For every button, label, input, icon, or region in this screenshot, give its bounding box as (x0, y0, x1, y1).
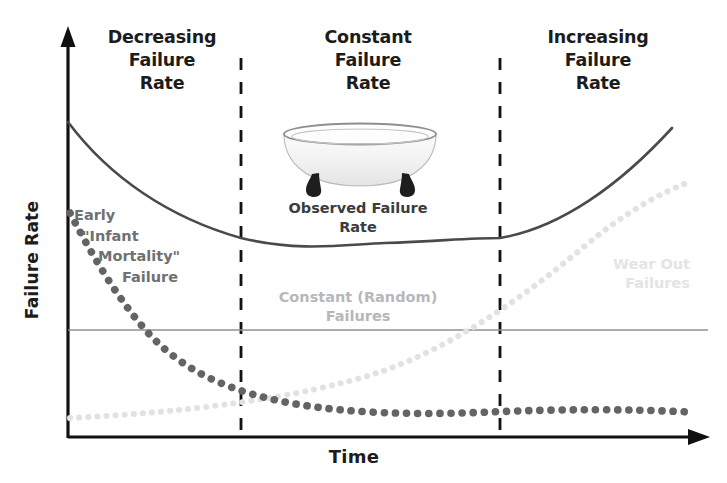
infant-mortality-label-line4: Failure (72, 267, 180, 288)
x-axis (68, 429, 710, 445)
observed-failure-rate-label-line2: Rate (258, 218, 458, 237)
zone-heading-increasing-line1: Increasing (520, 26, 676, 49)
infant-mortality-label-line2: "Infant (72, 226, 180, 247)
constant-random-failures-label-line1: Constant (Random) (250, 288, 466, 307)
constant-random-failures-label-line2: Failures (250, 307, 466, 326)
wear-out-failures-label-line2: Failures (578, 274, 690, 293)
observed-failure-rate-label: Observed Failure Rate (258, 199, 458, 237)
bathtub-foot-left (306, 173, 321, 197)
infant-mortality-label-line3: Mortality" (72, 246, 180, 267)
bathtub-icon (274, 120, 446, 200)
zone-heading-increasing-line3: Rate (520, 72, 676, 95)
zone-heading-constant: Constant Failure Rate (292, 26, 444, 95)
bathtub-curve-diagram: Decreasing Failure Rate Constant Failure… (0, 0, 727, 483)
wear-out-failures-label: Wear Out Failures (578, 255, 690, 294)
observed-failure-rate-label-line1: Observed Failure (258, 199, 458, 218)
zone-heading-constant-line3: Rate (292, 72, 444, 95)
zone-heading-increasing: Increasing Failure Rate (520, 26, 676, 95)
zone-heading-constant-line2: Failure (292, 49, 444, 72)
x-axis-title: Time (274, 446, 434, 467)
zone-heading-increasing-line2: Failure (520, 49, 676, 72)
bathtub-foot-right (400, 173, 415, 197)
zone-heading-decreasing-line2: Failure (86, 49, 238, 72)
constant-random-failures-label: Constant (Random) Failures (250, 288, 466, 326)
zone-heading-decreasing: Decreasing Failure Rate (86, 26, 238, 95)
zone-heading-decreasing-line1: Decreasing (86, 26, 238, 49)
zone-heading-constant-line1: Constant (292, 26, 444, 49)
wear-out-failures-label-line1: Wear Out (578, 255, 690, 274)
infant-mortality-label: Early "Infant Mortality" Failure (72, 205, 180, 287)
bathtub-icon-graphic (274, 120, 446, 200)
y-axis-title: Failure Rate (22, 180, 42, 340)
infant-mortality-label-line1: Early (72, 205, 180, 226)
zone-heading-decreasing-line3: Rate (86, 72, 238, 95)
